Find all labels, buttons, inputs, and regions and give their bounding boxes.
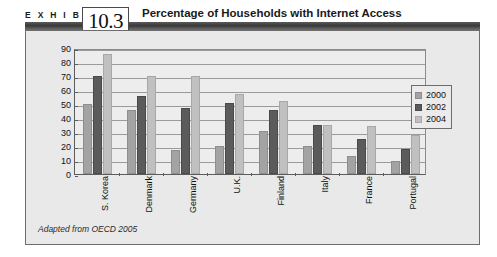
x-axis-label: Italy [320, 176, 330, 193]
bar-2004-France [367, 126, 376, 174]
bar-group [339, 50, 383, 174]
legend-swatch-2002 [415, 104, 422, 111]
bar-2004-Germany [191, 76, 200, 174]
bar-2002-UK [225, 103, 234, 174]
legend-label-2002: 2002 [426, 103, 446, 112]
bar-2002-Italy [313, 125, 322, 174]
bar-2000-UK [215, 146, 224, 174]
chart-frame: 0102030405060708090 S. KoreaDenmarkGerma… [25, 30, 480, 245]
y-axis: 0102030405060708090 [46, 49, 71, 175]
bar-2000-Finland [259, 131, 268, 174]
legend-item-2004: 2004 [415, 113, 446, 125]
bar-group [251, 50, 295, 174]
y-axis-tick-label: 90 [49, 45, 71, 54]
bar-group [295, 50, 339, 174]
bar-2000-SKorea [83, 104, 92, 174]
x-axis-label: Portugal [408, 176, 418, 210]
legend-label-2000: 2000 [426, 91, 446, 100]
bar-2002-France [357, 139, 366, 174]
bar-2000-Germany [171, 150, 180, 174]
bar-2002-Finland [269, 110, 278, 174]
bar-2002-Germany [181, 108, 190, 174]
y-axis-tick-label: 80 [49, 59, 71, 68]
bar-group [207, 50, 251, 174]
bar-2002-Portugal [401, 149, 410, 174]
bar-2004-Portugal [411, 135, 420, 174]
y-axis-tick-label: 20 [49, 143, 71, 152]
bar-group [163, 50, 207, 174]
bar-2004-Finland [279, 101, 288, 174]
bar-2004-Denmark [147, 76, 156, 174]
x-axis-label: Finland [276, 176, 286, 206]
bar-2004-SKorea [103, 54, 112, 174]
legend-swatch-2004 [415, 116, 422, 123]
bar-2000-Portugal [391, 161, 400, 174]
bar-2002-SKorea [93, 76, 102, 174]
exhibit-figure: E X H I B I T 10.3 Percentage of Househo… [0, 0, 497, 257]
y-axis-tick-label: 0 [49, 171, 71, 180]
bar-group [75, 50, 119, 174]
x-axis-label: U.K. [232, 176, 242, 194]
legend-item-2002: 2002 [415, 101, 446, 113]
chart-legend: 200020022004 [411, 85, 452, 129]
x-axis-label: France [364, 176, 374, 204]
y-axis-tick-label: 40 [49, 115, 71, 124]
x-axis-label: Germany [188, 176, 198, 213]
y-axis-tick-label: 10 [49, 157, 71, 166]
plot-area [74, 49, 426, 175]
bar-2000-Italy [303, 146, 312, 174]
exhibit-title: Percentage of Households with Internet A… [142, 7, 402, 19]
x-axis-label: S. Korea [100, 176, 110, 211]
bar-2004-UK [235, 94, 244, 174]
bar-2002-Denmark [137, 96, 146, 174]
exhibit-header: E X H I B I T 10.3 Percentage of Househo… [0, 0, 497, 32]
legend-item-2000: 2000 [415, 89, 446, 101]
bar-2004-Italy [323, 125, 332, 174]
bar-2000-France [347, 156, 356, 174]
y-axis-tick-label: 70 [49, 73, 71, 82]
y-axis-tick-label: 50 [49, 101, 71, 110]
bar-group [119, 50, 163, 174]
x-axis-label: Denmark [144, 176, 154, 213]
source-note: Adapted from OECD 2005 [38, 224, 137, 234]
y-axis-tick-label: 30 [49, 129, 71, 138]
legend-label-2004: 2004 [426, 115, 446, 124]
bar-2000-Denmark [127, 110, 136, 174]
y-axis-tick-label: 60 [49, 87, 71, 96]
legend-swatch-2000 [415, 92, 422, 99]
